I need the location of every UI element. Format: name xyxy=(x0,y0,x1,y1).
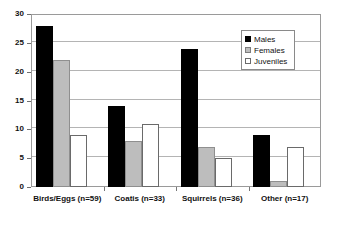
legend-item-juveniles[interactable]: Juveniles xyxy=(245,56,290,66)
bar-juveniles xyxy=(70,135,87,187)
legend-label: Females xyxy=(254,46,285,55)
bar-group xyxy=(31,14,104,187)
x-tick-mark xyxy=(104,187,105,191)
bar-males xyxy=(108,106,125,187)
x-axis-label: Squirrels (n=36) xyxy=(176,194,249,204)
x-tick-mark xyxy=(176,187,177,191)
bar-males xyxy=(181,49,198,187)
legend-item-males[interactable]: Males xyxy=(245,34,290,44)
bar-juveniles xyxy=(287,147,304,187)
x-axis: Birds/Eggs (n=59)Coatis (n=33)Squirrels … xyxy=(31,194,321,214)
bar-chart: 051015202530 Birds/Eggs (n=59)Coatis (n=… xyxy=(0,0,340,234)
bar-group xyxy=(104,14,177,187)
y-tick-label: 30 xyxy=(15,10,24,18)
y-tick-label: 25 xyxy=(15,39,24,47)
y-tick-label: 15 xyxy=(15,97,24,105)
legend-label: Juveniles xyxy=(254,57,287,66)
y-tick-label: 0 xyxy=(20,183,24,191)
y-tick-label: 10 xyxy=(15,125,24,133)
x-axis-label: Coatis (n=33) xyxy=(104,194,177,204)
bar-males xyxy=(253,135,270,187)
y-tick-label: 20 xyxy=(15,68,24,76)
x-tick-mark xyxy=(249,187,250,191)
legend-item-females[interactable]: Females xyxy=(245,45,290,55)
x-axis-ticks xyxy=(31,187,321,193)
x-axis-label: Other (n=17) xyxy=(249,194,322,204)
bar-females xyxy=(125,141,142,187)
filled-black-square-icon xyxy=(245,36,251,42)
bar-group xyxy=(176,14,249,187)
y-axis: 051015202530 xyxy=(0,0,31,234)
bar-juveniles xyxy=(215,158,232,187)
open-white-square-icon xyxy=(245,58,251,64)
y-tick-label: 5 xyxy=(20,154,24,162)
bar-females xyxy=(53,60,70,187)
bar-males xyxy=(36,26,53,187)
filled-gray-square-icon xyxy=(245,47,251,53)
x-axis-label: Birds/Eggs (n=59) xyxy=(31,194,104,204)
legend-label: Males xyxy=(254,35,275,44)
bar-females xyxy=(198,147,215,187)
bar-juveniles xyxy=(142,124,159,187)
legend: MalesFemalesJuveniles xyxy=(241,30,295,70)
